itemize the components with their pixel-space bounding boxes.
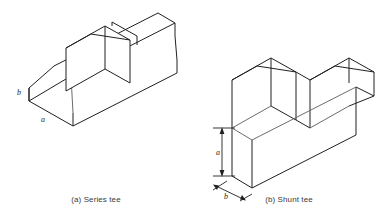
shunt-height-label: a bbox=[216, 148, 220, 157]
figure-sheet: b a bbox=[0, 0, 385, 216]
shunt-tee-drawing: a b bbox=[0, 0, 385, 216]
caption-shunt-tee: (b) Shunt tee bbox=[193, 195, 385, 204]
caption-series-tee: (a) Series tee bbox=[0, 195, 192, 204]
